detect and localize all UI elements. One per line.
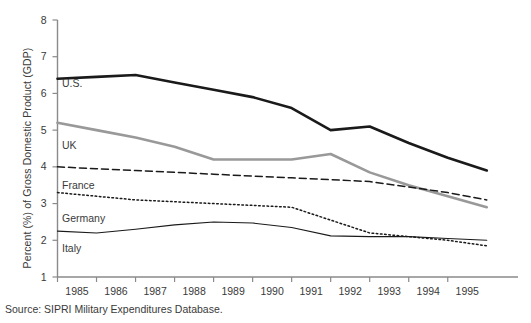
y-tick-label: 4 xyxy=(29,161,47,172)
y-tick-label: 1 xyxy=(29,272,47,283)
y-tick-label: 6 xyxy=(29,88,47,99)
x-tick-label: 1995 xyxy=(437,286,497,297)
series-label-uk: UK xyxy=(62,140,77,151)
series-label-france: France xyxy=(62,180,95,191)
series-line-italy xyxy=(58,222,487,240)
series-line-uk xyxy=(58,123,487,207)
chart-figure: Percent (%) of Gross Domestic Product (G… xyxy=(0,0,531,323)
series-label-us: U.S. xyxy=(62,78,82,89)
series-label-italy: Italy xyxy=(62,243,81,254)
y-tick-label: 5 xyxy=(29,125,47,136)
y-tick-label: 7 xyxy=(29,51,47,62)
source-note: Source: SIPRI Military Expenditures Data… xyxy=(5,303,223,315)
y-tick-label: 2 xyxy=(29,235,47,246)
plot-area xyxy=(0,0,531,323)
series-line-france xyxy=(58,167,487,200)
y-tick-label: 3 xyxy=(29,198,47,209)
series-label-germany: Germany xyxy=(62,213,105,224)
series-line-germany xyxy=(58,193,487,246)
y-tick-label: 8 xyxy=(29,15,47,26)
series-line-us xyxy=(58,75,487,170)
